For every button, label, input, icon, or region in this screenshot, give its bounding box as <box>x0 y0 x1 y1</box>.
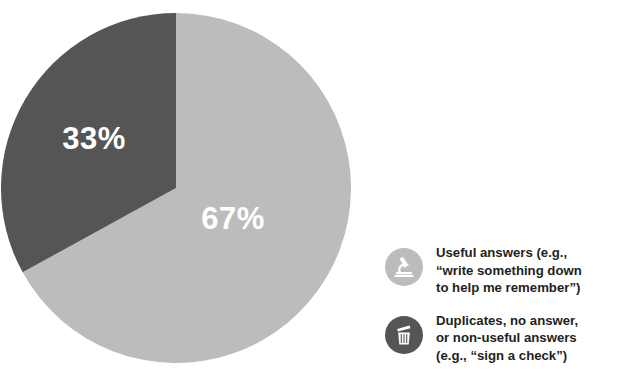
legend-item-non-useful[interactable]: Duplicates, no answer, or non-useful ans… <box>385 311 622 365</box>
microscope-icon <box>385 248 423 286</box>
legend-item-useful[interactable]: Useful answers (e.g., “write something d… <box>385 243 622 297</box>
trash-icon <box>385 316 423 354</box>
pie-label-non-useful: 33% <box>62 121 126 156</box>
chart-legend: Useful answers (e.g., “write something d… <box>385 243 622 378</box>
pie-chart: 67% 33% <box>1 13 351 363</box>
legend-label-non-useful: Duplicates, no answer, or non-useful ans… <box>436 311 578 365</box>
legend-label-useful: Useful answers (e.g., “write something d… <box>436 243 582 297</box>
pie-chart-svg: 67% 33% <box>1 13 351 363</box>
pie-label-useful: 67% <box>201 201 265 236</box>
